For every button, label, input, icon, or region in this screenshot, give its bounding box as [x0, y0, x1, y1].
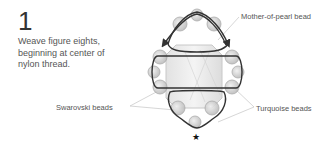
mother-of-pearl-bead [166, 45, 222, 108]
label-turquoise-beads: Turquoise beads [256, 104, 312, 113]
label-mother-of-pearl-bead: Mother-of-pearl bead [241, 12, 311, 21]
label-swarovski-beads: Swarovski beads [56, 103, 113, 112]
figure-eight-diagram: ★ [0, 0, 330, 144]
start-star-icon: ★ [192, 132, 200, 142]
